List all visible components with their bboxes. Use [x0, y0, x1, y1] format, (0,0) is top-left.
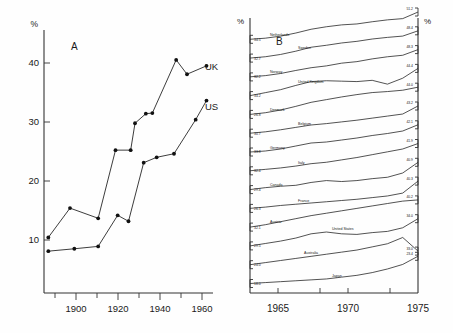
panel-b-left-value-11: 29.5	[254, 244, 261, 248]
panel-b-unit-percent-right: %	[424, 17, 431, 26]
panel-a-point-us-0	[46, 249, 50, 253]
panel-a-xtick-1900: 1900	[65, 303, 86, 314]
panel-b: % % B Netherlands34.551.2Sweden32.748.4N…	[228, 0, 453, 333]
panel-a-point-us-3	[116, 213, 120, 217]
panel-b-country-label-sweden: Sweden	[298, 46, 311, 50]
panel-a-point-uk-6	[144, 112, 148, 116]
panel-b-country-label-netherlands: Netherlands	[270, 33, 290, 37]
panel-a-xtick-1960: 1960	[191, 303, 212, 314]
panel-b-right-value-9: 40.3	[406, 177, 413, 181]
panel-b-country-label-denmark: Denmark	[270, 108, 285, 112]
panel-b-line-japan	[250, 256, 418, 283]
panel-b-left-value-2: 32.2	[254, 75, 261, 79]
panel-a-ytick-10: 10	[28, 234, 39, 245]
panel-b-left-value-8: 29.4	[254, 188, 261, 192]
panel-b-xtick-1970: 1970	[337, 303, 360, 314]
panel-b-right-value-11: 34.0	[406, 214, 413, 218]
panel-a-point-uk-7	[150, 111, 154, 115]
panel-a-x-ticks	[55, 293, 202, 300]
panel-b-country-label-united-states: United States	[332, 227, 354, 231]
panel-b-left-value-13: 18.0	[254, 282, 261, 286]
panel-a-line-us	[48, 101, 206, 252]
panel-b-right-value-3: 44.4	[406, 64, 413, 68]
panel-a-point-uk-2	[96, 216, 100, 220]
panel-a-point-uk-3	[114, 148, 118, 152]
panel-a-ytick-40: 40	[28, 57, 39, 68]
panel-a-point-us-6	[155, 155, 159, 159]
panel-b-country-label-japan: Japan	[332, 274, 342, 278]
panel-b-country-label-italy: Italy	[298, 161, 305, 165]
panel-a-point-uk-0	[46, 236, 50, 240]
panel-b-country-label-australia: Australia	[304, 251, 318, 255]
panel-b-right-value-10: 40.2	[406, 195, 413, 199]
panel-b-x-ticks	[278, 288, 390, 293]
panel-a-xtick-1940: 1940	[149, 303, 170, 314]
panel-a-point-us-8	[194, 118, 198, 122]
panel-a-point-uk-9	[185, 72, 189, 76]
panel-b-left-value-6: 33.8	[254, 150, 261, 154]
panel-b-left-value-7: 32.4	[254, 169, 261, 173]
panel-b-left-value-0: 34.5	[254, 38, 261, 42]
panel-b-xtick-1975: 1975	[407, 303, 430, 314]
panel-a-point-us-5	[142, 161, 146, 165]
panel-b-left-value-10: 32.1	[254, 226, 261, 230]
panel-b-left-value-4: 26.8	[254, 113, 261, 117]
panel-a-series-label-uk: UK	[205, 61, 219, 72]
panel-b-left-value-3: 34.2	[254, 94, 261, 98]
panel-a-xtick-1920: 1920	[107, 303, 128, 314]
panel-b-label: B	[276, 36, 283, 47]
panel-b-label-group: Netherlands34.551.2Sweden32.748.4Norway3…	[254, 7, 413, 286]
panel-a-series-label-us: US	[205, 101, 218, 112]
panel-b-left-value-5: 30.7	[254, 132, 261, 136]
panel-a-point-us-1	[72, 247, 76, 251]
panel-a-plot: 40 30 20 10 % A 1900 1920 1940 1960	[0, 0, 228, 333]
panel-b-right-value-8: 40.9	[406, 158, 413, 162]
panel-a-line-uk	[48, 60, 206, 238]
panel-b-right-value-12: 33.0	[406, 247, 413, 251]
panel-b-unit-percent-left: %	[237, 17, 244, 26]
panel-b-country-label-austria: Austria	[270, 220, 281, 224]
panel-a-point-us-7	[172, 152, 176, 156]
panel-a-series-group	[46, 58, 208, 253]
panel-a: 40 30 20 10 % A 1900 1920 1940 1960	[0, 0, 228, 333]
panel-b-right-value-4: 44.0	[406, 83, 413, 87]
panel-a-point-us-2	[96, 244, 100, 248]
panel-b-country-label-france: France	[298, 199, 309, 203]
panel-b-left-value-1: 32.7	[254, 57, 261, 61]
panel-b-country-label-united-kingdom: United Kingdom	[298, 80, 324, 84]
panel-a-point-uk-4	[129, 148, 133, 152]
panel-b-country-label-germany: Germany	[270, 146, 285, 150]
panel-a-unit-percent: %	[30, 19, 38, 29]
panel-b-right-value-6: 42.1	[406, 120, 413, 124]
panel-b-country-label-belgium: Belgium	[298, 122, 311, 126]
panel-a-point-uk-8	[174, 58, 178, 62]
panel-b-right-value-1: 48.4	[406, 26, 413, 30]
panel-b-right-value-13: 23.4	[406, 252, 413, 256]
panel-b-right-value-7: 41.9	[406, 139, 413, 143]
panel-a-label: A	[71, 41, 78, 52]
panel-a-ytick-20: 20	[28, 175, 39, 186]
panel-b-left-value-9: 26.3	[254, 207, 261, 211]
panel-b-right-value-2: 48.3	[406, 45, 413, 49]
panel-b-plot: % % B Netherlands34.551.2Sweden32.748.4N…	[228, 0, 453, 333]
panel-a-point-uk-1	[68, 206, 72, 210]
panel-a-ytick-30: 30	[28, 116, 39, 127]
panel-b-country-label-norway: Norway	[270, 70, 282, 74]
panel-b-xtick-1965: 1965	[267, 303, 290, 314]
panel-b-country-label-canada: Canada	[270, 183, 283, 187]
panel-a-y-ticks	[44, 63, 50, 240]
panel-a-point-uk-5	[133, 121, 137, 125]
figure-root: 40 30 20 10 % A 1900 1920 1940 1960	[0, 0, 453, 333]
panel-a-point-us-4	[127, 219, 131, 223]
panel-b-right-value-5: 43.2	[406, 101, 413, 105]
panel-b-left-value-12: 24.0	[254, 263, 261, 267]
panel-b-right-value-0: 51.2	[406, 7, 413, 11]
